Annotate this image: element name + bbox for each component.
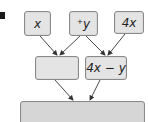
node-mid-left-blank[interactable] [35, 56, 79, 80]
node-4x: 4x [114, 11, 144, 34]
node-label: 4x − y [86, 61, 126, 75]
arrow-negy-to-mid-left [60, 36, 80, 55]
arrow-mid-right-to-result [90, 80, 100, 100]
node-negative-y: ⁺y [69, 11, 98, 36]
node-x: x [24, 11, 51, 36]
node-4x-minus-y: 4x − y [85, 56, 127, 80]
node-label: ⁺y [77, 17, 90, 31]
arrow-x-to-mid-left [40, 36, 57, 55]
node-label: 4x [122, 16, 137, 30]
node-result-blank[interactable] [20, 101, 145, 122]
arrow-4x-to-mid-right [108, 34, 125, 55]
node-label: x [34, 17, 41, 31]
arrow-mid-left-to-result [55, 80, 73, 100]
arrow-negy-to-mid-right [86, 36, 105, 55]
